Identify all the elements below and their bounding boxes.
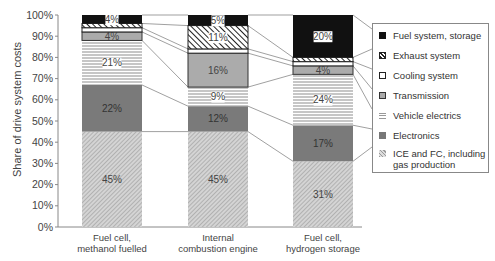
segment-label: 9%: [211, 91, 226, 102]
x-label-line1: Fuel cell,: [268, 232, 378, 243]
x-label-line1: Internal: [163, 232, 273, 243]
white-swatch-icon: [379, 72, 386, 79]
segment-cooling-system: [82, 28, 142, 32]
segment-label: 45%: [208, 174, 228, 185]
y-tick-label: 20%: [32, 178, 53, 190]
segment-exhaust-system: [293, 57, 353, 61]
segment-label: 31%: [313, 189, 333, 200]
segment-label: 21%: [102, 57, 122, 68]
y-tick-label: 0%: [38, 221, 53, 233]
hatched-swatch-icon: [379, 52, 386, 59]
y-tick-label: 50%: [32, 115, 53, 127]
legend-item-fuel-system: Fuel system, storage: [379, 30, 481, 41]
solid-black-swatch-icon: [379, 32, 386, 39]
legend-item-transmission: Transmission: [379, 90, 449, 101]
y-tick-label: 70%: [32, 72, 53, 84]
x-label-hydrogen: Fuel cell, hydrogen storage: [268, 232, 378, 254]
segment-label: 12%: [208, 113, 228, 124]
legend-item-electronics: Electronics: [379, 130, 439, 141]
legend-item-vehicle-electrics: Vehicle electrics: [379, 110, 461, 121]
segment-label: 20%: [313, 31, 333, 42]
y-tick-label: 30%: [32, 157, 53, 169]
x-label-methanol: Fuel cell, methanol fuelled: [57, 232, 167, 254]
y-tick-label: 90%: [32, 30, 53, 42]
bars: 45%22%21%4%4%45%12%9%16%11%5%31%17%24%4%…: [82, 14, 353, 227]
y-tick-label: 10%: [32, 199, 53, 211]
horizontal-lines-swatch-icon: [379, 112, 386, 119]
x-label-line1: Fuel cell,: [57, 232, 167, 243]
bar-1: 45%12%9%16%11%5%: [188, 15, 248, 227]
segment-cooling-system: [293, 62, 353, 66]
y-tick-label: 60%: [32, 93, 53, 105]
segment-label: 17%: [313, 138, 333, 149]
dark-gray-swatch-icon: [379, 132, 386, 139]
segment-label: 24%: [313, 94, 333, 105]
legend-item-cooling-system: Cooling system: [379, 70, 458, 81]
x-label-ice: Internal combustion engine: [163, 232, 273, 254]
x-label-line2: methanol fuelled: [57, 243, 167, 254]
segment-label: 11%: [208, 32, 227, 43]
y-tick-label: 100%: [26, 9, 53, 21]
legend-item-ice-fc: ICE and FC, includinggas production: [379, 148, 485, 170]
x-label-line2: combustion engine: [163, 243, 273, 254]
bar-2: 31%17%24%4%20%: [293, 15, 353, 227]
y-tick-label: 40%: [32, 136, 53, 148]
segment-label: 22%: [102, 103, 122, 114]
y-tick-label: 80%: [32, 51, 53, 63]
x-label-line2: hydrogen storage: [268, 243, 378, 254]
light-hatched-swatch-icon: [379, 150, 386, 157]
segment-label: 4%: [105, 14, 120, 25]
segment-label: 5%: [211, 15, 226, 26]
legend: Fuel system, storage Exhaust system Cool…: [372, 23, 489, 173]
legend-item-exhaust-system: Exhaust system: [379, 50, 460, 61]
segment-label: 45%: [102, 174, 122, 185]
bar-0: 45%22%21%4%4%: [82, 14, 142, 227]
segment-label: 16%: [208, 65, 228, 76]
segment-cooling-system: [188, 49, 248, 53]
gray-swatch-icon: [379, 92, 386, 99]
y-axis-label: Share of drive system costs: [11, 67, 23, 177]
